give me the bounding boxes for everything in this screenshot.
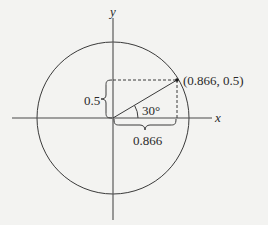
y-axis-label: y	[108, 4, 116, 19]
vertical-brace	[101, 80, 112, 118]
horizontal-leg-label: 0.866	[133, 133, 163, 148]
angle-label: 30°	[142, 103, 160, 118]
x-axis-label: x	[214, 110, 221, 125]
unit-circle-diagram: y x (0.866, 0.5) 30° 0.5 0.866	[0, 0, 268, 225]
horizontal-brace	[114, 119, 176, 130]
point-label: (0.866, 0.5)	[183, 73, 244, 88]
angle-arc	[135, 106, 138, 119]
vertical-leg-label: 0.5	[84, 93, 100, 108]
point-marker	[175, 78, 179, 82]
